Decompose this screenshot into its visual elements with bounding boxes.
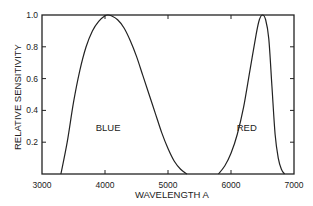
y-axis-label: RELATIVE SENSITIVITY bbox=[12, 43, 23, 150]
x-axis-label: WAVELENGTH A bbox=[135, 189, 210, 200]
curve-red bbox=[218, 15, 284, 174]
series-labels: BLUERED bbox=[96, 122, 257, 133]
x-tick-label: 6000 bbox=[222, 180, 241, 190]
x-tick-label: 4000 bbox=[96, 180, 115, 190]
y-tick-label: 0.8 bbox=[26, 42, 38, 52]
y-tick-label: 0.4 bbox=[26, 105, 38, 115]
x-tick-label: 7000 bbox=[285, 180, 304, 190]
series-label-blue: BLUE bbox=[96, 122, 121, 133]
y-tick-label: 0.6 bbox=[26, 74, 38, 84]
y-tick-label: 0.2 bbox=[26, 137, 38, 147]
plot-frame bbox=[42, 15, 294, 174]
y-tick-label: 1.0 bbox=[26, 10, 38, 20]
x-tick-label: 3000 bbox=[33, 180, 52, 190]
curve-blue bbox=[61, 15, 187, 174]
series-label-red: RED bbox=[237, 122, 257, 133]
chart: 30004000500060007000 0.20.40.60.81.0 BLU… bbox=[0, 0, 313, 206]
curves bbox=[61, 15, 285, 174]
